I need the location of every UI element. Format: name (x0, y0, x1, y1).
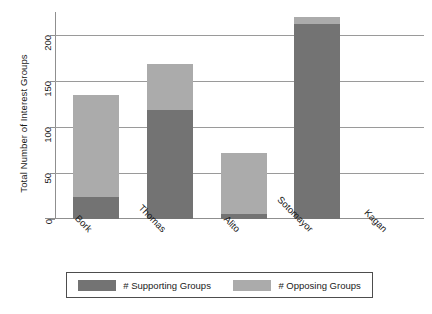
bar-segment (147, 64, 193, 110)
gridline (55, 81, 424, 82)
y-tick-label: 100 (43, 127, 54, 143)
bar-segment (294, 24, 340, 219)
bar-segment (147, 110, 193, 219)
legend-swatch-opposing (233, 280, 271, 291)
x-tick-label: Bork (81, 218, 103, 240)
y-tick-label: 50 (43, 173, 54, 184)
bar-bork: Bork (73, 95, 119, 219)
y-tick-label: 150 (43, 81, 54, 97)
bar-segment (294, 17, 340, 24)
bar-sotomayor: Sotomayor (294, 17, 340, 219)
bar-chart: Total Number of Interest Groups 05010015… (0, 0, 432, 314)
legend-swatch-supporting (78, 280, 116, 291)
bar-segment (221, 153, 267, 215)
y-tick-label: 200 (43, 35, 54, 51)
legend-label-opposing: # Opposing Groups (278, 280, 360, 291)
plot-area: 050100150200 BorkThomasAlitoSotomayorKag… (55, 12, 424, 219)
y-tick-label: 0 (43, 219, 54, 224)
gridline (55, 35, 424, 36)
legend-label-supporting: # Supporting Groups (123, 280, 211, 291)
bar-segment (73, 95, 119, 197)
bar-thomas: Thomas (147, 64, 193, 219)
y-axis-title: Total Number of Interest Groups (18, 19, 29, 229)
legend-item-supporting: # Supporting Groups (78, 280, 211, 291)
x-tick-label: Alito (229, 218, 250, 239)
chart-legend: # Supporting Groups # Opposing Groups (66, 272, 373, 298)
legend-item-opposing: # Opposing Groups (233, 280, 360, 291)
bar-alito: Alito (221, 153, 267, 219)
y-axis-line (55, 12, 56, 219)
x-tick-label: Kagan (374, 215, 401, 242)
